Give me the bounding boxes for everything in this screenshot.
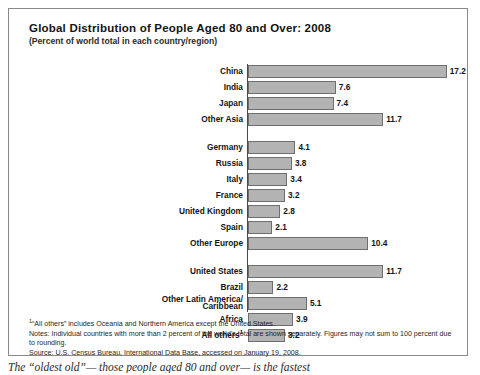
page-body-text: The “oldest old”— those people aged 80 a… bbox=[8, 361, 476, 373]
notes-line: Notes: Individual countries with more th… bbox=[29, 330, 457, 348]
bar bbox=[248, 297, 307, 310]
chart-header: Global Distribution of People Aged 80 an… bbox=[29, 22, 449, 46]
bar-value-label: 17.2 bbox=[447, 64, 466, 78]
bar-value-label: 3.8 bbox=[292, 156, 307, 170]
bar-value-label: 3.4 bbox=[287, 172, 302, 186]
bar bbox=[248, 189, 285, 202]
bar bbox=[248, 157, 292, 170]
bar-row: Japan7.4 bbox=[29, 96, 459, 110]
bar-value-label: 7.6 bbox=[336, 80, 351, 94]
bar-label: Russia bbox=[29, 156, 243, 170]
bar-label: United States bbox=[29, 264, 243, 278]
bar-row: Brazil2.2 bbox=[29, 280, 459, 294]
footnote-line: 1“All others” includes Oceania and North… bbox=[29, 320, 457, 329]
bar-value-label: 4.1 bbox=[295, 140, 310, 154]
bar bbox=[248, 65, 447, 78]
bar bbox=[248, 265, 383, 278]
bar-row: United Kingdom2.8 bbox=[29, 204, 459, 218]
bar-label: Germany bbox=[29, 140, 243, 154]
bar-value-label: 10.4 bbox=[368, 236, 387, 250]
bar-label: Spain bbox=[29, 220, 243, 234]
bar bbox=[248, 113, 383, 126]
chart-title: Global Distribution of People Aged 80 an… bbox=[29, 22, 449, 34]
chart-notes: 1“All others” includes Oceania and North… bbox=[29, 320, 457, 358]
bar-value-label: 2.1 bbox=[272, 220, 287, 234]
bar bbox=[248, 281, 273, 294]
bar-label: Other Asia bbox=[29, 112, 243, 126]
bar-value-label: 5.1 bbox=[307, 296, 322, 310]
bar-value-label: 11.7 bbox=[383, 112, 402, 126]
bar bbox=[248, 173, 287, 186]
bar-value-label: 2.2 bbox=[273, 280, 288, 294]
bar-row: United States11.7 bbox=[29, 264, 459, 278]
bar-row: Italy3.4 bbox=[29, 172, 459, 186]
bar-group-europe: Germany4.1Russia3.8Italy3.4France3.2Unit… bbox=[29, 140, 459, 252]
bar-group-asia: China17.2India7.6Japan7.4Other Asia11.7 bbox=[29, 64, 459, 128]
bar bbox=[248, 221, 272, 234]
bar-value-label: 2.8 bbox=[280, 204, 295, 218]
bar-label: China bbox=[29, 64, 243, 78]
bar-label: Japan bbox=[29, 96, 243, 110]
plot-area: China17.2India7.6Japan7.4Other Asia11.7G… bbox=[29, 64, 459, 312]
bar-label: India bbox=[29, 80, 243, 94]
source-line: Source: U.S. Census Bureau, Internationa… bbox=[29, 349, 457, 358]
bar-value-label: 3.2 bbox=[285, 188, 300, 202]
bar-row: India7.6 bbox=[29, 80, 459, 94]
chart-subtitle: (Percent of world total in each country/… bbox=[29, 36, 449, 46]
bar-row: Germany4.1 bbox=[29, 140, 459, 154]
bar bbox=[248, 81, 336, 94]
bar-row: Other Europe10.4 bbox=[29, 236, 459, 250]
bar-row: Other Latin America/Caribbean5.1 bbox=[29, 296, 459, 310]
bar-row: China17.2 bbox=[29, 64, 459, 78]
bar bbox=[248, 205, 280, 218]
footnote-text: “All others” includes Oceania and Northe… bbox=[32, 320, 275, 328]
bar-row: Other Asia11.7 bbox=[29, 112, 459, 126]
bar-label: Other Latin America/Caribbean bbox=[29, 296, 243, 311]
bar bbox=[248, 237, 368, 250]
bar-value-label: 7.4 bbox=[334, 96, 349, 110]
bar-label: Italy bbox=[29, 172, 243, 186]
bar-row: France3.2 bbox=[29, 188, 459, 202]
bar-value-label: 11.7 bbox=[383, 264, 402, 278]
bar bbox=[248, 97, 334, 110]
bar-row: Russia3.8 bbox=[29, 156, 459, 170]
bar-label: United Kingdom bbox=[29, 204, 243, 218]
bar bbox=[248, 141, 295, 154]
bar-label: France bbox=[29, 188, 243, 202]
bar-label: Brazil bbox=[29, 280, 243, 294]
figure-container: Global Distribution of People Aged 80 an… bbox=[8, 8, 468, 356]
bar-row: Spain2.1 bbox=[29, 220, 459, 234]
bar-label: Other Europe bbox=[29, 236, 243, 250]
